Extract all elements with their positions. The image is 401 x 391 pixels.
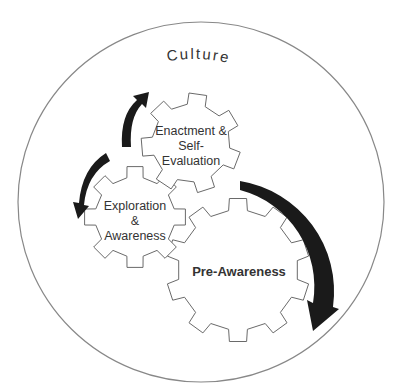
diagram-canvas: Culture Enactment & Self- Evaluation Exp…	[0, 0, 401, 391]
exploration-label-line-1: Exploration	[104, 199, 167, 213]
enactment-label-line-3: Evaluation	[162, 154, 220, 168]
pre-awareness-label: Pre-Awareness	[192, 264, 286, 279]
exploration-label-line-3: Awareness	[104, 229, 166, 243]
enactment-label-line-1: Enactment &	[155, 124, 227, 138]
diagram-stage: Culture Enactment & Self- Evaluation Exp…	[0, 0, 401, 391]
exploration-label-line-2: &	[131, 214, 140, 228]
enactment-label-line-2: Self-	[178, 139, 204, 153]
